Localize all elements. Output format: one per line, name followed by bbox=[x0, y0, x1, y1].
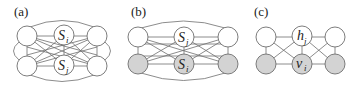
node-c-tr bbox=[325, 27, 345, 47]
node-a-tl bbox=[17, 26, 37, 46]
diagram-canvas: (a) bbox=[0, 0, 364, 87]
node-b-sj-label: S bbox=[178, 30, 185, 45]
panel-c-label: (c) bbox=[254, 4, 268, 19]
node-a-br bbox=[87, 56, 107, 76]
node-c-hj-label: h bbox=[297, 28, 304, 43]
node-a-bl bbox=[17, 56, 37, 76]
node-c-bl bbox=[256, 54, 276, 74]
panel-a: (a) bbox=[14, 4, 111, 82]
panel-a-nodes: S i S j bbox=[17, 25, 107, 76]
panel-a-label: (a) bbox=[14, 4, 28, 19]
node-c-br bbox=[325, 54, 345, 74]
node-a-si-label: S bbox=[58, 28, 65, 43]
node-c-vi-label: v bbox=[296, 56, 303, 71]
node-b-sj-sub: j bbox=[185, 37, 189, 47]
node-a-tr bbox=[87, 26, 107, 46]
node-b-si-label: S bbox=[178, 57, 185, 72]
node-b-bl bbox=[128, 54, 148, 74]
panel-b: (b) S j S i bbox=[128, 4, 238, 81]
panel-c: (c) h j v i bbox=[254, 4, 345, 74]
node-a-sj-label: S bbox=[58, 58, 65, 73]
node-b-tr bbox=[218, 27, 238, 47]
node-a-sj-sub: j bbox=[65, 65, 69, 75]
node-b-tl bbox=[128, 27, 148, 47]
node-c-hj-sub: j bbox=[303, 36, 307, 46]
node-c-tl bbox=[256, 27, 276, 47]
panel-b-label: (b) bbox=[131, 4, 146, 19]
node-b-br bbox=[218, 54, 238, 74]
panel-c-nodes: h j v i bbox=[256, 26, 345, 74]
